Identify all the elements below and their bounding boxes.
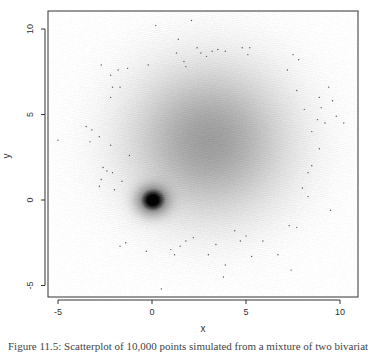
outlier-point <box>292 54 293 55</box>
outlier-point <box>240 240 241 241</box>
outlier-point <box>183 61 184 62</box>
outlier-point <box>121 180 122 181</box>
outlier-point <box>211 51 212 52</box>
outlier-point <box>215 244 216 245</box>
outlier-point <box>290 269 291 270</box>
outlier-point <box>287 69 288 70</box>
outlier-point <box>99 136 100 137</box>
y-tick-label: 0 <box>25 197 35 202</box>
density-layer <box>48 11 358 297</box>
figure-caption: Figure 11.5: Scatterplot of 10,000 point… <box>8 340 368 352</box>
outlier-point <box>91 129 92 130</box>
y-axis-label: y <box>1 154 12 159</box>
outlier-point <box>161 288 162 289</box>
x-tick-label: 5 <box>243 307 248 317</box>
outlier-point <box>101 179 102 180</box>
outlier-point <box>251 256 252 257</box>
x-axis: -50510 <box>54 300 345 317</box>
outlier-point <box>193 237 194 238</box>
y-tick-label: 5 <box>25 112 35 117</box>
x-tick-label: 0 <box>149 307 154 317</box>
outlier-point <box>332 100 333 101</box>
outlier-point <box>311 131 312 132</box>
outlier-point <box>262 240 263 241</box>
outlier-point <box>57 139 58 140</box>
y-tick-label: 10 <box>25 24 35 34</box>
outlier-point <box>223 276 224 277</box>
outlier-point <box>242 47 243 48</box>
outlier-point <box>148 64 149 65</box>
outlier-point <box>307 172 308 173</box>
outlier-point <box>174 254 175 255</box>
outlier-point <box>225 264 226 265</box>
outlier-point <box>317 119 318 120</box>
outlier-point <box>311 165 312 166</box>
outlier-point <box>289 225 290 226</box>
outlier-point <box>277 254 278 255</box>
outlier-point <box>180 245 181 246</box>
y-tick-label: -5 <box>25 281 35 289</box>
outlier-point <box>101 64 102 65</box>
outlier-point <box>225 51 226 52</box>
outlier-point <box>196 47 197 48</box>
y-axis: -50510 <box>25 24 45 290</box>
outlier-point <box>176 52 177 53</box>
outlier-point <box>200 52 201 53</box>
outlier-point <box>99 186 100 187</box>
outlier-point <box>247 54 248 55</box>
outlier-point <box>296 90 297 91</box>
outlier-point <box>245 235 246 236</box>
outlier-point <box>319 148 320 149</box>
outlier-point <box>110 74 111 75</box>
outlier-point <box>89 141 90 142</box>
outlier-point <box>185 240 186 241</box>
outlier-point <box>119 86 120 87</box>
outlier-point <box>112 172 113 173</box>
outlier-point <box>234 230 235 231</box>
outlier-point <box>185 66 186 67</box>
outlier-point <box>110 97 111 98</box>
outlier-point <box>127 68 128 69</box>
x-tick-label: 10 <box>335 307 345 317</box>
outlier-point <box>328 86 329 87</box>
outlier-point <box>106 170 107 171</box>
outlier-point <box>117 69 118 70</box>
x-axis-label: x <box>201 323 206 334</box>
outlier-point <box>343 122 344 123</box>
outlier-point <box>146 251 147 252</box>
outlier-point <box>304 109 305 110</box>
outlier-point <box>208 254 209 255</box>
x-tick-label: -5 <box>54 307 62 317</box>
outlier-point <box>206 56 207 57</box>
outlier-point <box>102 167 103 168</box>
outlier-point <box>298 59 299 60</box>
outlier-point <box>307 196 308 197</box>
outlier-point <box>110 145 111 146</box>
outlier-point <box>125 242 126 243</box>
outlier-point <box>191 20 192 21</box>
outlier-point <box>249 47 250 48</box>
outlier-point <box>330 210 331 211</box>
outlier-point <box>112 86 113 87</box>
outlier-point <box>178 39 179 40</box>
outlier-point <box>302 187 303 188</box>
outlier-point <box>296 227 297 228</box>
outlier-point <box>119 245 120 246</box>
outlier-point <box>321 107 322 108</box>
outlier-point <box>86 126 87 127</box>
outlier-point <box>155 25 156 26</box>
outlier-point <box>170 249 171 250</box>
outlier-point <box>114 189 115 190</box>
outlier-point <box>129 155 130 156</box>
outlier-point <box>324 122 325 123</box>
outlier-point <box>319 97 320 98</box>
outlier-point <box>217 49 218 50</box>
outlier-point <box>336 116 337 117</box>
